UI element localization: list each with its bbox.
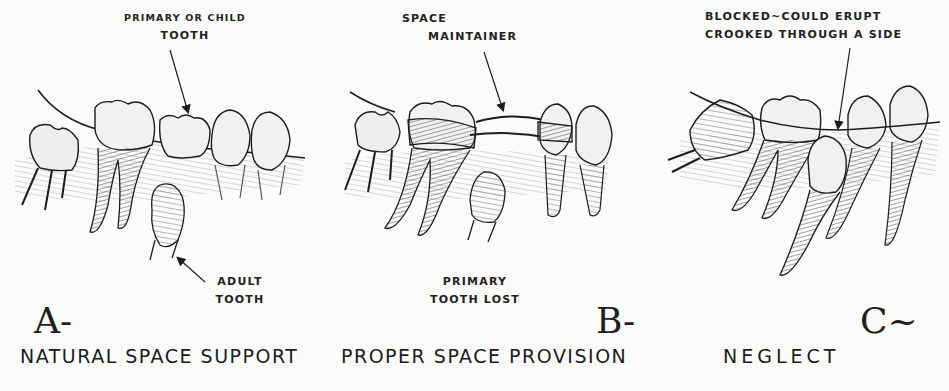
illustration-canvas bbox=[0, 0, 949, 391]
label-adult-tooth: ADULT TOOTH bbox=[205, 273, 275, 309]
caption-neglect: NEGLECT bbox=[723, 345, 839, 367]
label-line: TOOTH bbox=[110, 27, 260, 45]
panel-b-drawing bbox=[345, 52, 612, 242]
label-line: TOOTH bbox=[205, 291, 275, 309]
label-primary-tooth: PRIMARY OR CHILD TOOTH bbox=[110, 9, 260, 45]
label-line: PRIMARY bbox=[410, 273, 540, 291]
label-line: CROOKED THROUGH A SIDE bbox=[705, 26, 945, 44]
label-primary-tooth-lost: PRIMARY TOOTH LOST bbox=[410, 273, 540, 309]
panel-a-drawing bbox=[15, 50, 305, 282]
label-line: SPACE bbox=[380, 10, 540, 28]
label-line: ADULT bbox=[205, 273, 275, 291]
label-space-maintainer: SPACE MAINTAINER bbox=[380, 10, 540, 46]
label-line: BLOCKED~COULD ERUPT bbox=[705, 8, 945, 26]
label-blocked-erupt: BLOCKED~COULD ERUPT CROOKED THROUGH A SI… bbox=[705, 8, 945, 44]
figure-letter-c: C~ bbox=[860, 300, 918, 341]
figure-letter-a: A- bbox=[34, 300, 72, 341]
figure-letter-b: B- bbox=[596, 300, 635, 341]
label-line: MAINTAINER bbox=[380, 28, 540, 46]
caption-natural-space-support: NATURAL SPACE SUPPORT bbox=[20, 345, 298, 367]
panel-c-drawing bbox=[668, 48, 940, 275]
label-line: TOOTH LOST bbox=[410, 291, 540, 309]
label-line: PRIMARY OR CHILD bbox=[110, 9, 260, 27]
caption-proper-space-provision: PROPER SPACE PROVISION bbox=[341, 345, 627, 367]
